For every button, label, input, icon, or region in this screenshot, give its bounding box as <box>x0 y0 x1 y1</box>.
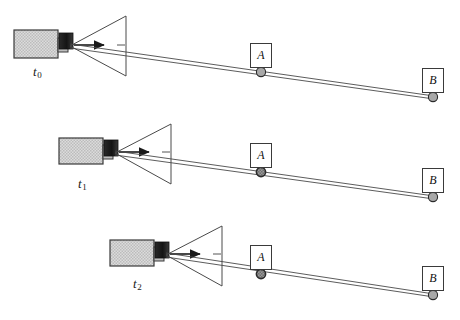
marker-box-b: B <box>422 168 444 193</box>
beam-cone <box>115 124 171 184</box>
time-label-2: t2 <box>133 276 142 292</box>
marker-circle-b <box>428 92 437 101</box>
marker-circle-b <box>428 192 437 201</box>
source-body <box>110 240 154 266</box>
beam-cone <box>166 226 222 286</box>
ray-line-1 <box>166 253 434 294</box>
row-t0 <box>14 16 438 102</box>
marker-circle-b <box>428 290 437 299</box>
diagram-canvas: ABt0ABt1ABt2 <box>0 0 460 320</box>
ray-line-1 <box>115 151 434 196</box>
time-label-0: t0 <box>33 64 42 80</box>
source-body <box>14 30 58 58</box>
row-t1 <box>59 124 438 202</box>
marker-box-b: B <box>422 68 444 93</box>
row-t2 <box>110 226 438 300</box>
marker-circle-a <box>256 67 265 76</box>
source-body <box>59 138 103 164</box>
marker-box-a: A <box>250 245 272 270</box>
beam-geometry-svg <box>0 0 460 320</box>
marker-box-a: A <box>250 43 272 68</box>
ray-line-2 <box>115 155 434 199</box>
marker-box-a: A <box>250 143 272 168</box>
marker-circle-a <box>256 269 265 278</box>
beam-cone <box>70 16 126 76</box>
marker-circle-a <box>256 167 265 176</box>
time-label-1: t1 <box>78 176 87 192</box>
marker-box-b: B <box>422 266 444 291</box>
